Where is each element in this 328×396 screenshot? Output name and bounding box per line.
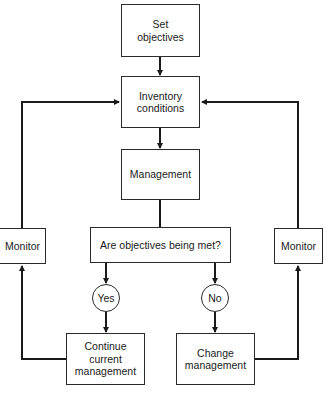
monitor-left-node: Monitor	[0, 228, 46, 264]
monitor-right-node: Monitor	[274, 228, 323, 264]
inventory-conditions-node: Inventory conditions	[121, 76, 200, 128]
no-node: No	[201, 284, 229, 312]
question-node: Are objectives being met?	[90, 227, 231, 263]
management-node: Management	[121, 149, 200, 200]
yes-node: Yes	[92, 284, 120, 312]
continue-management-node: Continue current management	[66, 333, 145, 385]
change-management-node: Change management	[176, 333, 255, 385]
set-objectives-node: Set objectives	[121, 4, 200, 57]
